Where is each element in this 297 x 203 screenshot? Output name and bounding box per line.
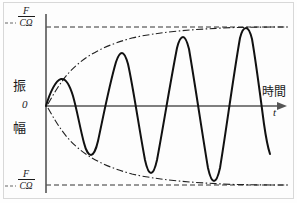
oscillation-curve xyxy=(46,28,270,181)
plot-canvas xyxy=(0,0,297,203)
upper-asymptote-fraction: F CΩ xyxy=(18,5,35,29)
upper-envelope-curve xyxy=(48,27,286,104)
upper-asymptote-numerator: F xyxy=(18,5,35,16)
lower-asymptote-numerator: F xyxy=(18,168,35,179)
upper-asymptote-denominator: CΩ xyxy=(18,17,35,29)
x-axis-variable-label: t xyxy=(273,106,276,118)
lower-asymptote-fraction: F CΩ xyxy=(18,168,35,192)
x-axis-label: 時間 xyxy=(262,82,286,99)
x-axis-arrowhead xyxy=(277,102,287,110)
y-axis-label-char-1: 振 xyxy=(10,79,28,92)
resonance-amplitude-figure: F CΩ F CΩ 振 幅 0 時間 t xyxy=(0,0,297,203)
lower-envelope-curve xyxy=(48,108,286,185)
y-axis-label-char-2: 幅 xyxy=(10,121,28,134)
lower-asymptote-denominator: CΩ xyxy=(18,180,35,192)
lower-asymptote-label: F CΩ xyxy=(8,168,44,192)
origin-label: 0 xyxy=(22,98,28,110)
upper-asymptote-label: F CΩ xyxy=(8,5,44,29)
